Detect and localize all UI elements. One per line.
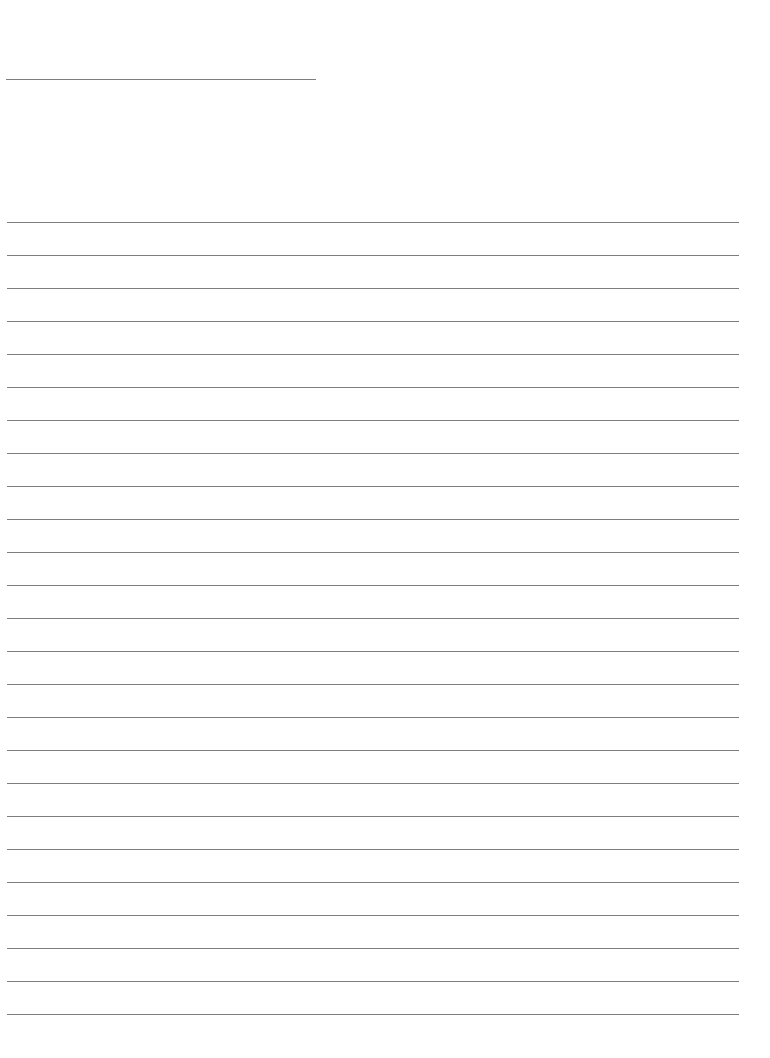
ruled-line bbox=[7, 354, 739, 355]
ruled-line bbox=[7, 618, 739, 619]
ruled-line bbox=[7, 816, 739, 817]
ruled-line bbox=[7, 948, 739, 949]
ruled-line bbox=[7, 849, 739, 850]
ruled-line bbox=[7, 453, 739, 454]
ruled-line bbox=[7, 552, 739, 553]
ruled-line bbox=[7, 750, 739, 751]
ruled-line bbox=[7, 255, 739, 256]
ruled-line bbox=[7, 1014, 739, 1015]
ruled-line bbox=[7, 651, 739, 652]
ruled-line bbox=[7, 222, 739, 223]
ruled-line bbox=[7, 915, 739, 916]
ruled-line bbox=[7, 288, 739, 289]
ruled-line bbox=[7, 321, 739, 322]
ruled-line bbox=[7, 882, 739, 883]
ruled-line bbox=[7, 981, 739, 982]
ruled-line bbox=[7, 519, 739, 520]
ruled-line bbox=[7, 717, 739, 718]
ruled-line bbox=[7, 387, 739, 388]
ruled-line bbox=[7, 783, 739, 784]
ruled-lines-area bbox=[0, 0, 770, 1058]
ruled-line bbox=[7, 486, 739, 487]
ruled-line bbox=[7, 684, 739, 685]
ruled-line bbox=[7, 585, 739, 586]
ruled-line bbox=[7, 420, 739, 421]
